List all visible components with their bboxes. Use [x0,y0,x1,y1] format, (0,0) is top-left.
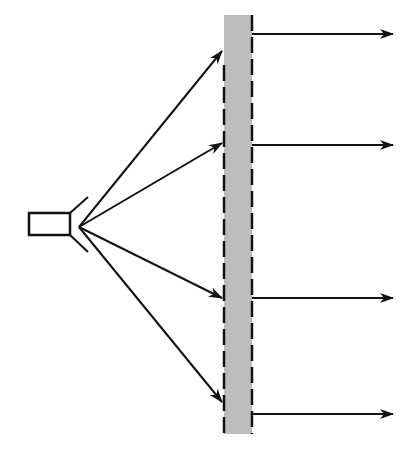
incident-rays [79,51,222,402]
incident-ray-arrow [79,227,222,298]
horn-top [70,197,88,213]
source-emitter [29,197,88,252]
incident-ray-arrow [79,51,222,227]
collimation-diagram [0,0,420,455]
slab-body [224,15,252,434]
source-body [29,213,70,235]
incident-ray-arrow [79,227,222,402]
horn-bottom [70,235,88,252]
output-rays [252,34,393,414]
incident-ray-arrow [79,143,222,227]
slab [224,15,252,434]
